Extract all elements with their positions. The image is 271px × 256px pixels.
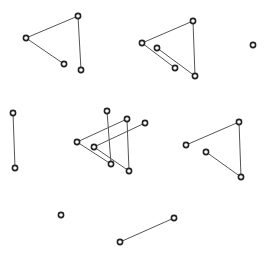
edge <box>239 122 241 177</box>
node-circle-icon <box>172 65 177 70</box>
node-circle-icon <box>108 161 113 166</box>
edge <box>193 21 195 76</box>
node-circle-icon <box>10 110 15 115</box>
node-circle-icon <box>126 168 131 173</box>
node-circle-icon <box>58 212 63 217</box>
graph-diagram <box>0 0 271 256</box>
edge <box>186 122 239 145</box>
group-bottom-line-edges <box>120 218 174 242</box>
group-right-nodes <box>183 119 243 179</box>
graph-svg <box>0 0 271 256</box>
edge <box>77 119 127 142</box>
node-circle-icon <box>238 174 243 179</box>
edge <box>26 16 78 38</box>
edge <box>94 147 129 171</box>
node-circle-icon <box>171 215 176 220</box>
group-isolated-top-right-nodes <box>250 42 255 47</box>
node-circle-icon <box>142 120 147 125</box>
edge <box>120 218 174 242</box>
node-circle-icon <box>104 108 109 113</box>
node-circle-icon <box>236 119 241 124</box>
edge <box>78 16 81 70</box>
group-isolated-bottom-left-nodes <box>58 212 63 217</box>
node-circle-icon <box>117 239 122 244</box>
node-circle-icon <box>75 13 80 18</box>
node-circle-icon <box>74 139 79 144</box>
edge-layer <box>13 16 241 242</box>
node-circle-icon <box>192 73 197 78</box>
node-circle-icon <box>139 40 144 45</box>
edge <box>157 48 195 76</box>
edge <box>127 119 129 171</box>
edge <box>142 21 193 43</box>
node-circle-icon <box>203 149 208 154</box>
group-top-middle-nodes <box>139 18 197 78</box>
node-circle-icon <box>124 116 129 121</box>
node-circle-icon <box>78 67 83 72</box>
group-top-middle-edges <box>142 21 195 76</box>
group-top-left-edges <box>26 16 81 70</box>
node-circle-icon <box>91 144 96 149</box>
node-circle-icon <box>61 61 66 66</box>
node-circle-icon <box>23 35 28 40</box>
edge <box>13 113 15 168</box>
edge <box>206 152 241 177</box>
node-circle-icon <box>190 18 195 23</box>
node-circle-icon <box>250 42 255 47</box>
group-right-edges <box>186 122 241 177</box>
node-circle-icon <box>154 45 159 50</box>
node-circle-icon <box>183 142 188 147</box>
node-circle-icon <box>12 165 17 170</box>
edge <box>94 123 145 147</box>
group-left-vertical-edges <box>13 113 15 168</box>
group-center-overlap-nodes <box>74 108 147 173</box>
edge <box>26 38 64 64</box>
